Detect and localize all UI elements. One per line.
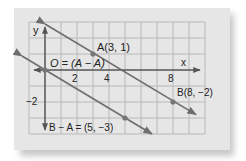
x-tick-8: 8 [168,73,174,84]
grid [29,22,205,134]
coordinate-plane: y x 2 4 8 −2 A(3, 1) B(8, −2) O = (A − A… [0,0,246,161]
y-tick-neg2: −2 [26,96,38,107]
label-B: B(8, −2) [177,87,213,98]
point-A [90,51,95,56]
x-axis-label: x [181,57,186,68]
point-B-minus-A [122,115,127,120]
label-B-minus-A: B − A = (5, −3) [49,122,113,133]
point-O [42,67,47,72]
label-O: O = (A − A) [50,57,105,69]
x-tick-2: 2 [72,73,78,84]
label-A: A(3, 1) [97,41,130,53]
y-axis-label: y [33,24,39,36]
point-B [170,99,175,104]
x-tick-4: 4 [104,73,110,84]
